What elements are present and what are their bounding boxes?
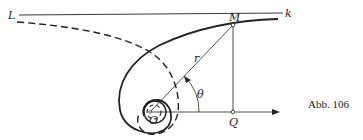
point-q [231,110,235,114]
label-m: M [228,11,241,24]
hyperbolic-spiral-diagram: L k M r θ O Q Abb. 106 [0,0,363,140]
axis-arrow-icon [272,109,280,115]
solid-spiral-branch [119,19,278,133]
label-l: L [7,9,15,22]
label-origin: O [149,114,158,127]
figure-caption: Abb. 106 [308,98,349,110]
radius-line [150,25,233,112]
asymptote-line [19,13,283,15]
label-r: r [194,52,200,65]
origin-point [149,111,152,114]
label-k: k [285,7,292,20]
label-theta: θ [197,88,204,101]
label-q: Q [229,116,238,129]
angle-arrow-icon [184,76,191,83]
